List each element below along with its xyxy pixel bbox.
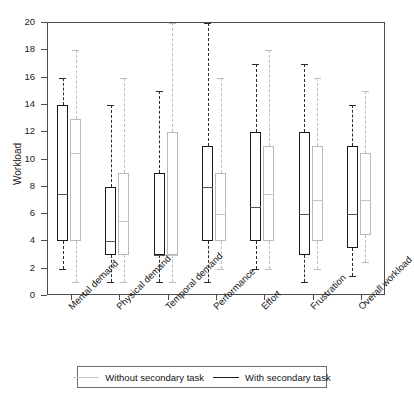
box-with-secondary-task (57, 105, 68, 242)
whisker-upper (317, 78, 318, 146)
whisker-cap-upper (204, 23, 211, 24)
median-line (57, 194, 68, 195)
whisker-lower (304, 255, 305, 282)
y-axis-tick-label: 10 (5, 154, 35, 164)
y-axis-tick (41, 295, 47, 296)
whisker-upper (221, 78, 222, 174)
box-without-secondary-task (70, 119, 81, 242)
y-axis-tick-label: 16 (5, 72, 35, 82)
whisker-cap-lower (72, 282, 79, 283)
whisker-cap-upper (362, 91, 369, 92)
box-with-secondary-task (154, 173, 165, 255)
whisker-cap-upper (301, 64, 308, 65)
whisker-cap-lower (301, 282, 308, 283)
whisker-upper (304, 64, 305, 132)
whisker-upper (76, 50, 77, 118)
whisker-cap-upper (349, 105, 356, 106)
y-axis-tick-label: 4 (5, 235, 35, 245)
whisker-cap-upper (217, 78, 224, 79)
median-line (360, 200, 371, 201)
median-line (250, 207, 261, 208)
whisker-cap-lower (362, 262, 369, 263)
whisker-cap-lower (349, 276, 356, 277)
box-without-secondary-task (215, 173, 226, 241)
whisker-upper (159, 91, 160, 173)
chart-legend: Without secondary taskWith secondary tas… (77, 366, 327, 388)
whisker-upper (63, 78, 64, 105)
whisker-cap-lower (169, 282, 176, 283)
whisker-cap-upper (314, 78, 321, 79)
whisker-lower (76, 241, 77, 282)
whisker-cap-upper (59, 78, 66, 79)
whisker-upper (365, 91, 366, 152)
median-line (263, 194, 274, 195)
legend-label: With secondary task (245, 372, 331, 383)
whisker-upper (111, 105, 112, 187)
box-without-secondary-task (167, 132, 178, 255)
whisker-cap-lower (204, 282, 211, 283)
whisker-lower (365, 235, 366, 262)
y-axis-tick-label: 8 (5, 181, 35, 191)
y-axis-tick-label: 12 (5, 126, 35, 136)
whisker-cap-upper (72, 50, 79, 51)
whisker-lower (256, 241, 257, 268)
whisker-lower (269, 241, 270, 268)
whisker-upper (172, 23, 173, 132)
whisker-cap-upper (265, 50, 272, 51)
whisker-upper (269, 50, 270, 146)
y-axis-tick-label: 0 (5, 290, 35, 300)
legend-label: Without secondary task (105, 372, 204, 383)
whisker-cap-lower (156, 282, 163, 283)
median-line (118, 221, 129, 222)
whisker-cap-lower (107, 282, 114, 283)
legend-swatch-dark (213, 377, 239, 378)
y-axis-tick-label: 18 (5, 44, 35, 54)
y-axis-title: Workload (12, 142, 23, 184)
legend-item: With secondary task (213, 372, 331, 383)
legend-item: Without secondary task (73, 372, 204, 383)
whisker-cap-upper (169, 23, 176, 24)
whisker-upper (208, 23, 209, 146)
whisker-lower (63, 241, 64, 268)
box-with-secondary-task (202, 146, 213, 242)
median-line (312, 200, 323, 201)
median-line (299, 214, 310, 215)
median-line (215, 214, 226, 215)
whisker-lower (124, 255, 125, 282)
whisker-lower (317, 241, 318, 268)
median-line (347, 214, 358, 215)
box-with-secondary-task (299, 132, 310, 255)
legend-swatch-light (73, 377, 99, 378)
median-line (202, 187, 213, 188)
box-with-secondary-task (347, 146, 358, 248)
box-without-secondary-task (360, 153, 371, 235)
whisker-cap-lower (59, 269, 66, 270)
whisker-cap-upper (252, 64, 259, 65)
y-axis-tick-label: 6 (5, 208, 35, 218)
box-without-secondary-task (312, 146, 323, 242)
whisker-upper (352, 105, 353, 146)
whisker-upper (124, 78, 125, 174)
whisker-cap-upper (156, 91, 163, 92)
median-line (70, 153, 81, 154)
whisker-cap-lower (265, 269, 272, 270)
whisker-cap-lower (120, 282, 127, 283)
whisker-upper (256, 64, 257, 132)
whisker-cap-upper (107, 105, 114, 106)
box-with-secondary-task (250, 132, 261, 241)
median-line (105, 241, 116, 242)
y-axis-tick-label: 14 (5, 99, 35, 109)
whisker-cap-upper (120, 78, 127, 79)
box-with-secondary-task (105, 187, 116, 255)
whisker-cap-lower (217, 269, 224, 270)
box-without-secondary-task (118, 173, 129, 255)
y-axis-tick-label: 20 (5, 17, 35, 27)
whisker-lower (352, 248, 353, 275)
y-axis-tick-label: 2 (5, 263, 35, 273)
whisker-cap-lower (314, 269, 321, 270)
